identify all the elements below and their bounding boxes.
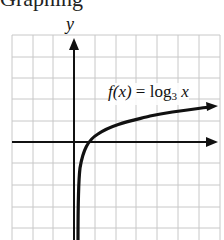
grid — [12, 35, 220, 240]
log-argument: x — [181, 82, 189, 101]
log-base: 3 — [171, 90, 177, 102]
function-name: f(x) — [108, 82, 132, 101]
y-axis-label: y — [66, 14, 74, 35]
equals-sign: = — [136, 82, 146, 101]
y-axis-arrow-icon — [69, 38, 79, 50]
function-label: f(x) = log3 x — [108, 83, 189, 105]
log-text: log — [150, 82, 172, 101]
x-axis-arrow-icon — [206, 137, 218, 147]
log-curve — [78, 107, 210, 240]
curve-arrow-icon — [206, 102, 218, 111]
log-graph — [0, 0, 224, 240]
